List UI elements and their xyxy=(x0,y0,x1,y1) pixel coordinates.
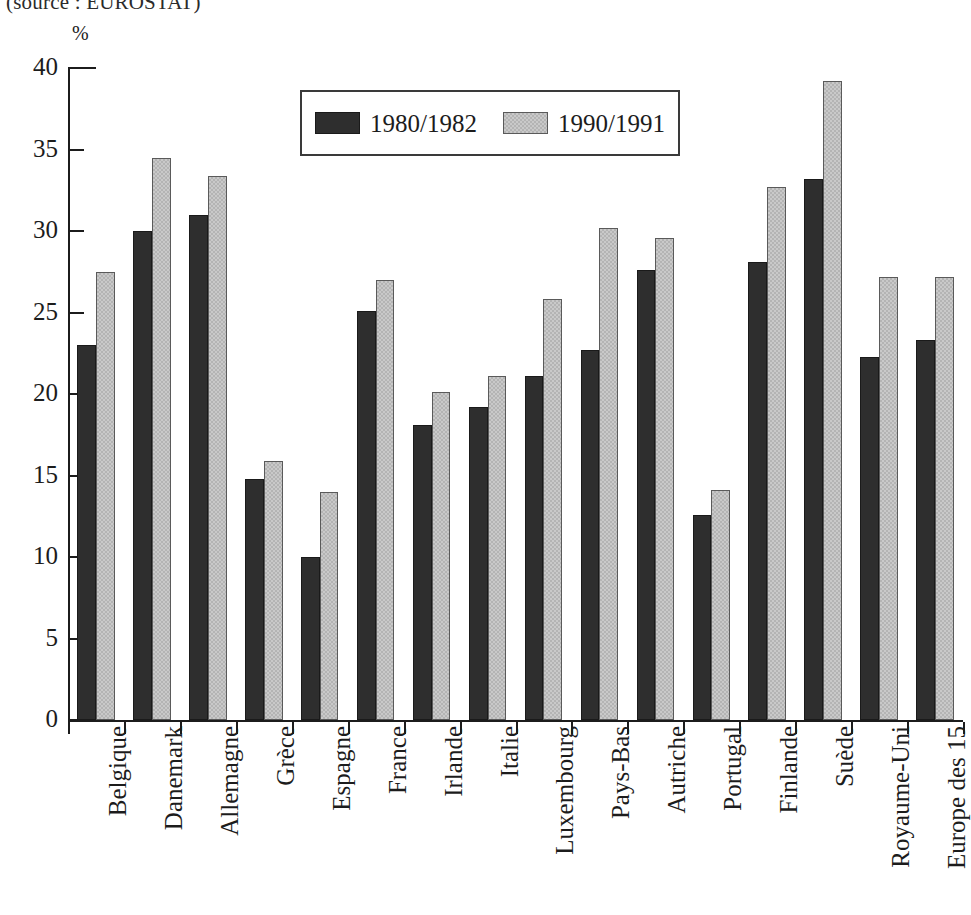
bar-group xyxy=(180,68,236,720)
bar xyxy=(693,515,712,720)
x-axis-category-label: Suède xyxy=(832,726,857,787)
bar-group xyxy=(292,68,348,720)
bar xyxy=(245,479,264,720)
bar-group xyxy=(907,68,963,720)
plot-area: 0510152025303540 xyxy=(68,68,963,722)
x-axis-category-label: Allemagne xyxy=(217,726,242,836)
x-axis-category-label: Portugal xyxy=(720,726,745,811)
y-axis-tick-label: 30 xyxy=(33,217,58,242)
y-axis-tick-label: 0 xyxy=(46,706,59,731)
bar xyxy=(767,187,786,720)
x-axis-category-label: Europe des 15 xyxy=(944,726,969,869)
bar xyxy=(804,179,823,720)
bar xyxy=(469,407,488,720)
bar-group xyxy=(627,68,683,720)
bar-group xyxy=(348,68,404,720)
bar xyxy=(711,490,730,720)
bar-group xyxy=(571,68,627,720)
bar-group xyxy=(795,68,851,720)
bar xyxy=(823,81,842,720)
bar xyxy=(96,272,115,720)
bar xyxy=(357,311,376,720)
bar xyxy=(189,215,208,720)
bar xyxy=(879,277,898,720)
bar-group xyxy=(851,68,907,720)
bar-group xyxy=(236,68,292,720)
x-axis-category-label: Royaume-Uni xyxy=(888,726,913,868)
y-axis-tick-label: 20 xyxy=(33,380,58,405)
bar xyxy=(916,340,935,720)
y-axis-unit-label: % xyxy=(72,22,89,45)
bar xyxy=(599,228,618,720)
bar-group xyxy=(516,68,572,720)
x-axis-category-label: Espagne xyxy=(329,726,354,811)
source-note: (source : EUROSTAT) xyxy=(6,0,201,15)
bar xyxy=(320,492,339,720)
bar xyxy=(376,280,395,720)
x-axis-category-label: Irlande xyxy=(441,726,466,797)
bar xyxy=(525,376,544,720)
bar xyxy=(655,238,674,720)
bar xyxy=(208,176,227,720)
y-axis-tick-label: 5 xyxy=(46,625,59,650)
x-axis-category-label: Italie xyxy=(497,726,522,777)
bar-group xyxy=(460,68,516,720)
bar xyxy=(301,557,320,720)
bar xyxy=(581,350,600,720)
x-axis-category-label: Grèce xyxy=(273,726,298,786)
bar-group xyxy=(404,68,460,720)
bar-group xyxy=(683,68,739,720)
bar xyxy=(935,277,954,720)
x-axis-category-label: Autriche xyxy=(664,726,689,813)
x-axis-category-label: Luxembourg xyxy=(552,726,577,855)
x-axis-category-label: France xyxy=(385,726,410,794)
bar xyxy=(748,262,767,720)
y-axis-tick-label: 40 xyxy=(33,54,58,79)
x-axis-category-label: Finlande xyxy=(776,726,801,814)
bar xyxy=(432,392,451,720)
bar xyxy=(860,357,879,720)
bar xyxy=(264,461,283,720)
x-axis-category-labels: BelgiqueDanemarkAllemagneGrèceEspagneFra… xyxy=(68,726,963,911)
y-axis-tick-label: 15 xyxy=(33,462,58,487)
y-axis-tick-label: 10 xyxy=(33,543,58,568)
bar-group xyxy=(739,68,795,720)
bar xyxy=(77,345,96,720)
bar xyxy=(637,270,656,720)
bar xyxy=(133,231,152,720)
bar-group xyxy=(68,68,124,720)
bar xyxy=(488,376,507,720)
bar-group xyxy=(124,68,180,720)
y-axis-tick-label: 25 xyxy=(33,299,58,324)
bar xyxy=(152,158,171,720)
x-axis-category-label: Belgique xyxy=(105,726,130,816)
bar xyxy=(543,299,562,720)
y-axis-tick-label: 35 xyxy=(33,136,58,161)
x-axis-category-label: Danemark xyxy=(161,726,186,830)
x-axis-category-label: Pays-Bas xyxy=(608,726,633,819)
bar xyxy=(413,425,432,720)
